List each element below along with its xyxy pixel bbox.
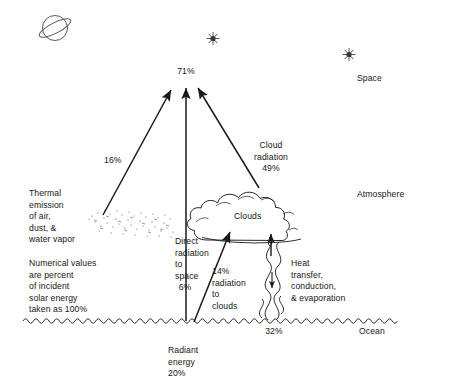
- label-surface-absorbed-pct: 32%: [254, 326, 294, 338]
- label-heat-transfer: Heat transfer, conduction, & evaporation: [291, 258, 345, 304]
- label-cloud-radiation: Cloud radiation: [240, 140, 302, 163]
- label-total-outgoing: 71%: [162, 66, 210, 78]
- label-ocean: Ocean: [359, 326, 385, 338]
- label-radiation-to-clouds: 14% radiation to clouds: [212, 266, 246, 312]
- label-space: Space: [357, 73, 382, 85]
- label-direct-radiation: Direct radiation to space: [175, 236, 209, 282]
- ringed-planet-icon: [37, 15, 73, 40]
- arrow-thermal-emission-16: [103, 90, 171, 215]
- label-radiant-energy-pct: 20%: [168, 368, 186, 380]
- star-icon: [207, 32, 220, 45]
- label-radiant-energy: Radiant energy: [168, 345, 198, 368]
- label-clouds: Clouds: [234, 211, 261, 223]
- label-thermal-emission: Thermal emission of air, dust, & water v…: [29, 188, 75, 246]
- ocean-surface-line: [23, 319, 397, 323]
- label-atmosphere: Atmosphere: [357, 189, 404, 201]
- label-thermal-emission-pct: 16%: [104, 155, 122, 167]
- energy-budget-diagram: 71% 16% Thermal emission of air, dust, &…: [0, 0, 452, 390]
- star-icon: [343, 48, 356, 61]
- label-direct-radiation-pct: 6%: [163, 282, 207, 294]
- haze-stipple-texture: [89, 210, 174, 238]
- label-units-note: Numerical values are percent of incident…: [29, 258, 97, 316]
- label-cloud-radiation-pct: 49%: [240, 163, 302, 175]
